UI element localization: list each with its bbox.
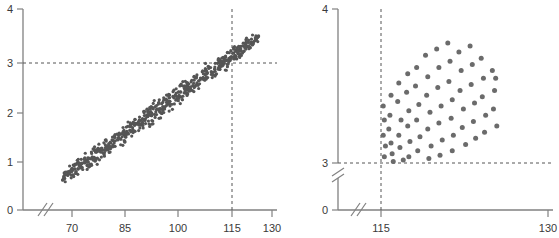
scatter-dot [256,40,259,43]
scatter-dot [439,104,444,109]
scatter-dot [472,100,477,105]
scatter-dot [435,85,440,90]
scatter-dot [201,69,204,72]
scatter-dot [425,127,430,132]
scatter-dot [96,147,99,150]
scatter-dot [154,116,157,119]
scatter-dot [463,142,468,147]
scatter-dot [399,117,404,122]
right-y-label-0: 0 [322,204,328,216]
scatter-dot [211,71,214,74]
scatter-dot [144,122,147,125]
scatter-dot [480,94,485,99]
scatter-dot [226,65,229,68]
scatter-dot [445,40,450,45]
scatter-dot [245,37,248,40]
scatter-dot [90,151,93,154]
scatter-dot [458,88,463,93]
scatter-dot [247,47,250,50]
scatter-dot [450,97,455,102]
scatter-dot [70,176,73,179]
scatter-dot [218,58,221,61]
scatter-dot [473,136,478,141]
scatter-dot [86,160,89,163]
right-y-tick-labels: 4 3 0 [322,3,328,216]
left-y-label-2: 2 [7,107,13,119]
scatter-dot [184,80,187,83]
left-y-label-3: 3 [7,57,13,69]
scatter-dot [123,141,126,144]
scatter-dot [196,84,199,87]
scatter-dot [149,114,152,117]
scatter-dot [423,53,428,58]
scatter-dot [77,161,80,164]
scatter-dot [254,36,257,39]
right-y-label-4: 4 [322,3,328,15]
scatter-dot [153,113,156,116]
scatter-dot [468,43,473,48]
scatter-dot [119,143,122,146]
scatter-dot [74,172,77,175]
scatter-dot [94,151,97,154]
left-y-label-1: 1 [7,156,13,168]
left-y-label-0: 0 [7,204,13,216]
scatter-dot [137,129,140,132]
scatter-dot [456,50,461,55]
scatter-dot [93,157,96,160]
scatter-dot [239,47,242,50]
scatter-dot [84,152,87,155]
right-x-label-130: 130 [539,222,557,234]
scatter-dot [64,172,67,175]
scatter-dot [224,55,227,58]
left-panel-svg: 4 3 2 1 0 70 85 100 115 130 [0,0,285,238]
scatter-dot [381,104,386,109]
scatter-dot [203,78,206,81]
scatter-dot [451,133,456,138]
scatter-dot [479,56,484,61]
scatter-dot [167,93,170,96]
scatter-dot [381,133,386,138]
scatter-dot [168,109,171,112]
scatter-dot [129,130,132,133]
scatter-dot [93,145,96,148]
scatter-dot [247,40,250,43]
scatter-dot [438,153,443,158]
scatter-dot [382,117,387,122]
scatter-dot [469,82,474,87]
scatter-dot [493,76,498,81]
scatter-dot [405,124,410,129]
scatter-dot [104,146,107,149]
right-scatter-points [381,40,500,164]
left-x-tick-labels: 70 85 100 115 130 [66,222,281,234]
scatter-dot [390,151,395,156]
scatter-dot [413,84,418,89]
right-scatter-panel: 4 3 0 115 130 [285,0,559,238]
scatter-dot [168,104,171,107]
scatter-dot [415,148,420,153]
right-panel-svg: 4 3 0 115 130 [285,0,559,238]
scatter-dot [129,125,132,128]
scatter-dot [217,66,220,69]
scatter-dot [396,133,401,138]
scatter-dot [203,72,206,75]
scatter-dot [450,148,455,153]
scatter-dot [407,139,412,144]
scatter-dot [142,126,145,129]
scatter-dot [153,99,156,102]
scatter-dot [482,130,487,135]
scatter-dot [204,62,207,65]
scatter-dot [386,127,391,132]
right-x-label-115: 115 [372,222,390,234]
left-x-ticks [72,210,272,217]
scatter-dot [192,90,195,93]
left-x-label-85: 85 [119,222,131,234]
scatter-dot [150,119,153,122]
scatter-dot [434,47,439,52]
left-x-label-70: 70 [66,222,78,234]
scatter-dot [247,44,250,47]
scatter-dot [162,96,165,99]
scatter-dot [142,110,145,113]
scatter-dot [114,139,117,142]
scatter-dot [436,120,441,125]
scatter-dot [188,86,191,89]
